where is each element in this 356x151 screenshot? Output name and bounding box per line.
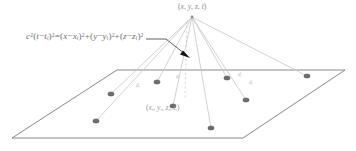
- vertical-drop-dashed: [185, 22, 187, 98]
- ray-station-4: [173, 17, 192, 106]
- station-coordinate-label: (xi, yi, zi, ti): [146, 104, 180, 113]
- emitter-coordinate-label: (x, y, z, t): [178, 3, 206, 11]
- station-dot-3: [154, 80, 160, 84]
- equation-leader: [146, 39, 190, 58]
- receiver-stations: [93, 74, 310, 130]
- distance-label-4: di: [249, 80, 253, 86]
- figure-canvas: c2(t−ti)2=(x−xi)2+(y−yi)2+(z−zi)2 (x, y,…: [0, 0, 356, 151]
- station-dot-2: [93, 119, 99, 123]
- range-equation: c2(t−ti)2=(x−xi)2+(y−yi)2+(z−zi)2: [26, 32, 144, 42]
- distance-label-1: di: [136, 83, 140, 89]
- distance-label-2: di: [176, 74, 180, 80]
- station-dot-5: [208, 126, 214, 130]
- emitter-point: [191, 16, 194, 19]
- distance-label-3: di: [238, 72, 242, 78]
- ray-station-7: [192, 17, 246, 100]
- station-dot-7: [243, 98, 249, 102]
- station-dot-8: [304, 74, 310, 78]
- station-dot-1: [108, 92, 114, 96]
- ray-station-1: [111, 17, 192, 94]
- station-dot-6: [224, 76, 230, 80]
